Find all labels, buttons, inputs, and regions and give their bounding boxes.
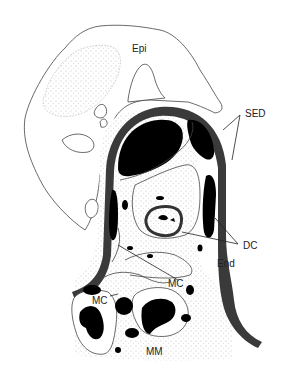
label-sed: SED (245, 108, 266, 119)
label-dc: DC (243, 240, 257, 251)
label-mc-right: MC (168, 278, 184, 289)
label-mm: MM (146, 346, 163, 357)
label-epi: Epi (132, 43, 146, 54)
anatomical-diagram: Epi SED DC End MC MC MM (0, 0, 282, 378)
label-end: End (217, 258, 235, 269)
label-mc-left: MC (92, 295, 108, 306)
